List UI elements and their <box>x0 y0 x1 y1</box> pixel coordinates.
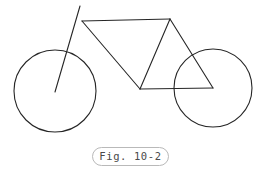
figure-caption-label: Fig. 10-2 <box>99 151 161 162</box>
down-tube-line <box>82 21 140 89</box>
seat-post-fork-line <box>55 6 80 92</box>
figure-caption-box: Fig. 10-2 <box>92 147 169 166</box>
seat-tube-line <box>140 19 170 89</box>
seat-stay-line <box>170 19 213 88</box>
figure-container: Fig. 10-2 <box>0 0 261 178</box>
chain-stay-line <box>140 88 213 89</box>
top-tube-line <box>82 19 170 21</box>
